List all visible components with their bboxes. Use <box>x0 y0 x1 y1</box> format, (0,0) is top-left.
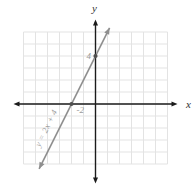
y-intercept-label: 4 <box>87 51 92 61</box>
x-axis-right-arrow-icon <box>172 102 178 107</box>
graph-canvas: y = 2x + 44-2yx <box>0 0 196 186</box>
data-point <box>69 102 73 106</box>
data-point <box>93 54 97 58</box>
x-axis-label: x <box>185 98 191 110</box>
x-axis-left-arrow-icon <box>14 102 20 107</box>
graph-figure: y = 2x + 44-2yx <box>0 0 196 186</box>
y-axis-up-arrow-icon <box>93 20 98 26</box>
y-axis-label: y <box>91 2 97 14</box>
y-axis-down-arrow-icon <box>93 178 98 184</box>
plotted-line <box>39 28 110 169</box>
x-intercept-label: -2 <box>77 105 85 115</box>
